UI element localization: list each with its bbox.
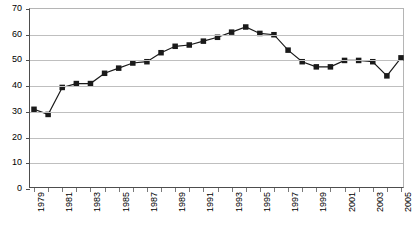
x-tick-label: 1981: [65, 192, 74, 212]
x-tick-label: 1995: [263, 192, 272, 212]
x-tick-label: 1979: [37, 192, 46, 212]
gridline: [30, 112, 403, 113]
x-tick-label: 1987: [150, 192, 159, 212]
y-tick-mark: [26, 60, 30, 61]
plot-area: [29, 8, 404, 188]
y-tick-label: 30: [12, 106, 22, 115]
x-tick-label: 1983: [93, 192, 102, 212]
gridline: [30, 60, 403, 61]
gridline: [30, 138, 403, 139]
data-point-marker: [102, 71, 108, 77]
data-point-marker: [116, 65, 122, 71]
data-point-marker: [314, 64, 320, 70]
series-polyline: [34, 27, 401, 114]
y-axis-labels: 010203040506070: [0, 0, 26, 237]
line-chart: 010203040506070 197919811983198519871989…: [0, 0, 413, 237]
y-tick-label: 10: [12, 158, 22, 167]
x-tick-label: 1991: [206, 192, 215, 212]
gridline: [30, 35, 403, 36]
data-point-marker: [158, 50, 164, 56]
y-tick-label: 0: [17, 184, 22, 193]
gridline: [30, 163, 403, 164]
data-point-marker: [285, 47, 291, 53]
x-tick-label: 1999: [319, 192, 328, 212]
y-tick-mark: [26, 9, 30, 10]
y-tick-label: 20: [12, 132, 22, 141]
data-point-marker: [201, 38, 207, 44]
data-point-marker: [384, 73, 390, 79]
x-tick-label: 1985: [122, 192, 131, 212]
y-tick-label: 40: [12, 81, 22, 90]
data-point-marker: [187, 42, 193, 48]
y-tick-mark: [26, 163, 30, 164]
y-tick-mark: [26, 138, 30, 139]
gridline: [30, 86, 403, 87]
y-tick-mark: [26, 35, 30, 36]
y-tick-label: 60: [12, 29, 22, 38]
y-tick-mark: [26, 86, 30, 87]
x-tick-label: 1989: [178, 192, 187, 212]
x-axis-labels: 1979198119831985198719891991199319951997…: [29, 190, 404, 237]
x-tick-label: 2001: [348, 192, 357, 212]
x-tick-label: 2005: [404, 192, 413, 212]
data-point-marker: [172, 44, 178, 50]
data-point-marker: [243, 24, 249, 30]
x-tick-label: 1997: [291, 192, 300, 212]
y-tick-label: 70: [12, 4, 22, 13]
x-tick-label: 1993: [235, 192, 244, 212]
data-point-marker: [328, 64, 334, 70]
y-tick-label: 50: [12, 55, 22, 64]
data-series-line: [30, 9, 405, 189]
x-tick-label: 2003: [376, 192, 385, 212]
y-tick-mark: [26, 112, 30, 113]
